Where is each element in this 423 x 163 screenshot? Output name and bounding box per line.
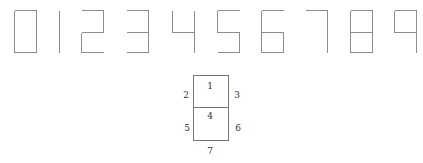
segment-label-1: 1 <box>207 81 213 91</box>
digit-4 <box>173 11 195 53</box>
digit-8 <box>351 11 373 53</box>
digit-0 <box>15 11 37 53</box>
digit-7 <box>306 11 328 53</box>
segment-key: 1 2 3 4 5 6 7 <box>183 76 241 157</box>
segment-label-5: 5 <box>184 123 190 133</box>
segment-label-2: 2 <box>183 90 189 100</box>
digit-6 <box>262 11 284 53</box>
digit-9 <box>395 11 417 53</box>
segment-label-3: 3 <box>234 90 240 100</box>
digit-2 <box>82 11 104 53</box>
digit-5 <box>218 11 240 53</box>
segment-label-4: 4 <box>207 111 213 121</box>
segment-label-6: 6 <box>235 123 241 133</box>
digit-row <box>15 11 417 53</box>
segment-label-7: 7 <box>207 146 213 156</box>
digit-3 <box>127 11 149 53</box>
seven-segment-diagram: 1 2 3 4 5 6 7 <box>0 0 423 163</box>
